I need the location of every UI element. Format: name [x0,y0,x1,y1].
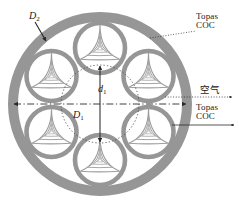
label-material-right-line2: COC [196,112,218,121]
label-material-top: Topas COC [196,12,218,31]
label-air: 空气 [200,85,221,95]
label-core-gap: d1 [98,84,107,96]
label-core-diameter: D1 [73,110,84,122]
fiber-cross-section-figure: D2 d1 D1 Topas COC 空气 Topas COC [0,0,239,212]
satellite-ring-bottom-left [27,107,77,157]
satellite-ring-bottom-right [124,107,174,157]
satellite-ring-top-right [124,51,174,101]
satellite-ring-bottom [75,135,125,185]
label-outer-diameter: D2 [29,11,40,23]
label-material-top-line2: COC [196,21,218,30]
satellite-ring-top-left [27,51,77,101]
label-material-right: Topas COC [196,103,218,122]
satellite-ring-top [75,23,125,73]
